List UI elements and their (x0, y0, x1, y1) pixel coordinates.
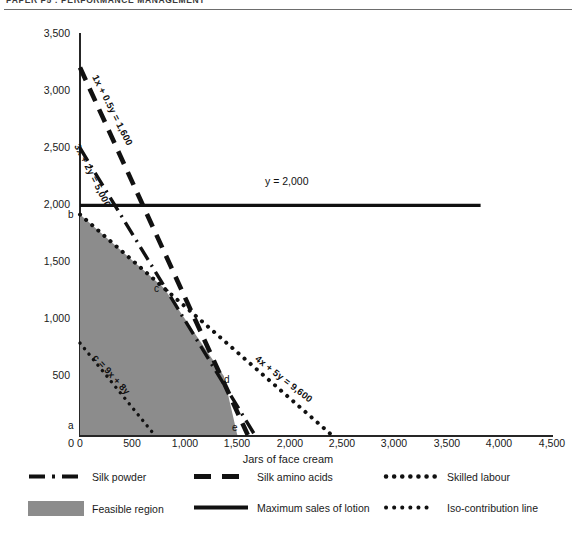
x-tick-2500: 2,500 (312, 437, 372, 449)
silk-powder-swatch-icon (28, 470, 84, 483)
header-divider (4, 9, 572, 10)
vertex-label-c: c (154, 284, 159, 294)
x-tick-4500: 4,500 (522, 437, 576, 449)
legend-label-iso-contribution: Iso-contribution line (447, 502, 538, 514)
annotation-maximum-sales: y = 2,000 (265, 175, 309, 187)
maximum-sales-swatch-icon (193, 501, 249, 514)
legend-label-silk-amino-acids: Silk amino acids (257, 471, 333, 483)
x-tick-1500: 1,500 (207, 437, 267, 449)
x-tick-0: 0 (50, 437, 110, 449)
x-tick-2000: 2,000 (260, 437, 320, 449)
feasible-region-swatch-icon (28, 501, 84, 516)
y-tick-3500: 3,500 (14, 27, 70, 39)
y-tick-1000: 1,000 (14, 312, 70, 324)
y-tick-3000: 3,000 (14, 84, 70, 96)
x-tick-3500: 3,500 (417, 437, 477, 449)
legend-item-iso-contribution: Iso-contribution line (383, 501, 538, 514)
feasible-region-polygon (80, 215, 237, 436)
silk-amino-acids-swatch-icon (193, 470, 249, 483)
legend-label-skilled-labour: Skilled labour (447, 471, 510, 483)
y-tick-2000: 2,000 (14, 198, 70, 210)
iso-contribution-swatch-icon (383, 501, 439, 514)
running-head: PAPER F5 : PERFORMANCE MANAGEMENT (0, 0, 576, 12)
y-tick-2500: 2,500 (14, 141, 70, 153)
legend-item-feasible-region: Feasible region (28, 501, 164, 516)
legend-item-skilled-labour: Skilled labour (383, 470, 510, 483)
x-tick-3000: 3,000 (364, 437, 424, 449)
legend-label-feasible-region: Feasible region (92, 503, 164, 515)
legend-item-silk-powder: Silk powder (28, 470, 146, 483)
x-tick-500: 500 (102, 437, 162, 449)
vertex-label-e: e (232, 423, 238, 433)
vertex-label-d: d (224, 375, 230, 385)
legend-item-silk-amino-acids: Silk amino acids (193, 470, 333, 483)
plot-area (80, 33, 552, 435)
vertex-label-a: a (68, 421, 74, 431)
legend-label-maximum-sales: Maximum sales of lotion (257, 502, 370, 514)
chart-legend: Silk powder Silk amino acids Skilled lab… (0, 466, 576, 538)
legend-label-silk-powder: Silk powder (92, 471, 146, 483)
vertex-label-b: b (68, 210, 74, 220)
x-axis-title: Jars of face cream (0, 453, 576, 465)
x-tick-4000: 4,000 (469, 437, 529, 449)
legend-item-maximum-sales: Maximum sales of lotion (193, 501, 370, 514)
running-head-text: PAPER F5 : PERFORMANCE MANAGEMENT (6, 0, 205, 5)
skilled-labour-swatch-icon (383, 470, 439, 483)
x-tick-1000: 1,000 (155, 437, 215, 449)
y-tick-500: 500 (14, 369, 70, 381)
y-tick-1500: 1,500 (14, 255, 70, 267)
